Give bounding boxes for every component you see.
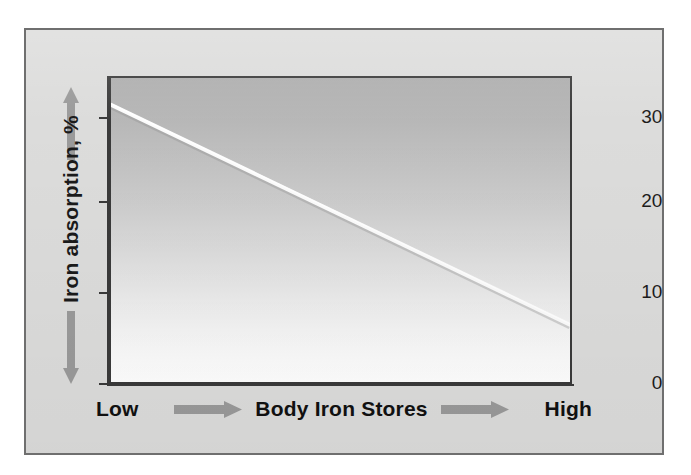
y-axis-spine [107,76,109,386]
arrow-right-icon [441,401,509,418]
y-tick-label-0: 0 [616,373,662,392]
y-tick-label-20: 20 [616,191,662,210]
y-tick-mark-10 [99,292,107,294]
x-axis-title-group: Body Iron Stores [174,397,508,421]
y-tick-mark-0 [99,383,107,385]
arrow-down-icon [60,311,82,384]
x-axis-title: Body Iron Stores [255,397,427,421]
y-tick-mark-20 [99,201,107,203]
x-axis-spine [107,384,574,386]
trend-line [111,105,570,325]
y-tick-label-30: 30 [616,107,662,126]
y-tick-label-10: 10 [616,282,662,301]
trend-line-highlight [111,104,570,324]
plot-panel [109,76,572,384]
x-axis-caption-row: Low Body Iron Stores High [96,394,592,424]
x-axis-low-label: Low [96,397,139,421]
y-tick-mark-30 [99,117,107,119]
y-axis-label-group: Iron absorption, % [54,87,88,384]
y-axis-title: Iron absorption, % [54,109,88,309]
arrow-right-icon [174,401,242,418]
trend-line-chart [111,78,570,382]
x-axis-high-label: High [545,397,592,421]
figure-frame: 30 20 10 0 Iron absorption, % Low Body I… [24,28,664,455]
